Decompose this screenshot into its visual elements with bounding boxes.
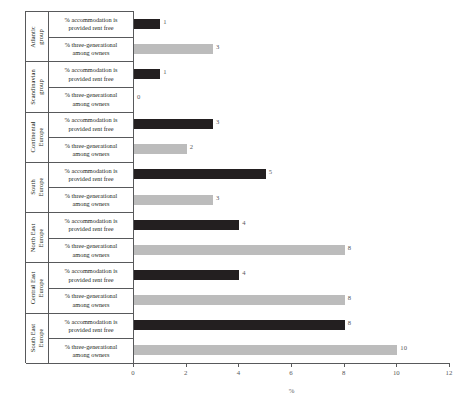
group-label-text: ContinentalEurope xyxy=(29,122,44,153)
group-label-line1: Continental xyxy=(29,122,37,153)
bar-value-continental-europe-three_gen: 2 xyxy=(190,142,193,152)
row-label-line1: % three-generational xyxy=(65,292,118,300)
row-label-line2: among owners xyxy=(65,351,118,359)
bar-continental-europe-rent_free xyxy=(134,119,213,129)
bar-row-scandinavian-three_gen: 0 xyxy=(134,86,450,111)
bar-value-south-east-europe-rent_free: 8 xyxy=(348,318,351,328)
row-label-central-east-europe-three_gen: % three-generationalamong owners xyxy=(49,288,133,313)
row-label-line1: % accommodation is xyxy=(65,116,118,124)
row-label-line1: % three-generational xyxy=(65,91,118,99)
x-tick-10 xyxy=(396,363,397,367)
bar-chart: Atlanticgroup% accommodation isprovided … xyxy=(0,0,469,416)
row-label-central-east-europe-rent_free: % accommodation isprovided rent free xyxy=(49,263,133,288)
bar-scandinavian-rent_free xyxy=(134,69,160,79)
bar-value-scandinavian-three_gen: 0 xyxy=(137,92,140,102)
x-tick-4 xyxy=(238,363,239,367)
bar-value-continental-europe-rent_free: 3 xyxy=(216,117,219,127)
bar-row-north-east-europe-rent_free: 4 xyxy=(134,212,450,237)
group-block-central-east-europe: Central EastEurope% accommodation isprov… xyxy=(26,263,133,313)
row-label-south-europe-three_gen: % three-generationalamong owners xyxy=(49,187,133,212)
group-label-line2: group xyxy=(37,26,45,47)
bar-south-east-europe-three_gen xyxy=(134,345,397,355)
row-label-line1: % three-generational xyxy=(65,142,118,150)
x-tick-label-10: 10 xyxy=(393,368,400,377)
group-label-south-east-europe: South EastEurope xyxy=(26,314,49,363)
bar-value-south-europe-three_gen: 3 xyxy=(216,193,219,203)
row-label-continental-europe-rent_free: % accommodation isprovided rent free xyxy=(49,113,133,138)
group-block-scandinavian: Scandinaviangroup% accommodation isprovi… xyxy=(26,62,133,112)
bar-value-north-east-europe-rent_free: 4 xyxy=(242,218,245,228)
x-tick-0 xyxy=(133,363,134,367)
row-label-line2: provided rent free xyxy=(65,125,118,133)
row-label-scandinavian-three_gen: % three-generationalamong owners xyxy=(49,87,133,112)
bar-value-central-east-europe-rent_free: 4 xyxy=(242,268,245,278)
bar-value-scandinavian-rent_free: 1 xyxy=(163,67,166,77)
group-rows-south-europe: % accommodation isprovided rent free% th… xyxy=(49,163,133,212)
row-label-line1: % accommodation is xyxy=(65,217,118,225)
row-label-line1: % three-generational xyxy=(65,192,118,200)
bar-row-atlantic-three_gen: 3 xyxy=(134,36,450,61)
row-label-north-east-europe-rent_free: % accommodation isprovided rent free xyxy=(49,213,133,238)
row-label-scandinavian-rent_free: % accommodation isprovided rent free xyxy=(49,62,133,87)
row-label-line2: among owners xyxy=(65,100,118,108)
row-label-south-europe-rent_free: % accommodation isprovided rent free xyxy=(49,163,133,188)
bar-row-south-east-europe-three_gen: 10 xyxy=(134,338,450,363)
group-label-scandinavian: Scandinaviangroup xyxy=(26,62,49,111)
row-label-line1: % accommodation is xyxy=(65,267,118,275)
group-block-continental-europe: ContinentalEurope% accommodation isprovi… xyxy=(26,113,133,163)
row-label-atlantic-rent_free: % accommodation isprovided rent free xyxy=(49,12,133,37)
row-label-continental-europe-three_gen: % three-generationalamong owners xyxy=(49,137,133,162)
bar-atlantic-three_gen xyxy=(134,44,213,54)
group-rows-continental-europe: % accommodation isprovided rent free% th… xyxy=(49,113,133,162)
bar-atlantic-rent_free xyxy=(134,19,160,29)
bar-row-continental-europe-rent_free: 3 xyxy=(134,112,450,137)
group-label-line2: Europe xyxy=(37,272,45,305)
bar-row-central-east-europe-three_gen: 8 xyxy=(134,288,450,313)
group-label-line1: North East xyxy=(29,224,37,253)
group-label-atlantic: Atlanticgroup xyxy=(26,12,49,61)
group-block-south-east-europe: South EastEurope% accommodation isprovid… xyxy=(26,314,133,364)
row-label-south-east-europe-three_gen: % three-generationalamong owners xyxy=(49,338,133,363)
x-tick-label-12: 12 xyxy=(446,368,453,377)
group-rows-scandinavian: % accommodation isprovided rent free% th… xyxy=(49,62,133,111)
plot-area: 131032534848810 024681012 % xyxy=(133,11,450,363)
row-label-line2: provided rent free xyxy=(65,24,118,32)
row-label-line1: % accommodation is xyxy=(65,318,118,326)
bar-row-central-east-europe-rent_free: 4 xyxy=(134,262,450,287)
row-label-line2: provided rent free xyxy=(65,75,118,83)
bar-value-atlantic-three_gen: 3 xyxy=(216,42,219,52)
row-label-line2: provided rent free xyxy=(65,326,118,334)
group-label-north-east-europe: North EastEurope xyxy=(26,213,49,262)
bar-value-south-europe-rent_free: 5 xyxy=(269,167,272,177)
group-label-line1: Central East xyxy=(29,272,37,305)
row-label-north-east-europe-three_gen: % three-generationalamong owners xyxy=(49,238,133,263)
group-label-line2: Europe xyxy=(37,324,45,353)
bar-row-atlantic-rent_free: 1 xyxy=(134,11,450,36)
x-tick-label-2: 2 xyxy=(184,368,187,377)
x-tick-label-8: 8 xyxy=(342,368,345,377)
group-rows-central-east-europe: % accommodation isprovided rent free% th… xyxy=(49,263,133,312)
group-label-text: SouthEurope xyxy=(29,178,44,197)
bar-value-north-east-europe-three_gen: 8 xyxy=(348,243,351,253)
row-label-line1: % accommodation is xyxy=(65,167,118,175)
bar-north-east-europe-rent_free xyxy=(134,220,239,230)
row-label-line1: % accommodation is xyxy=(65,66,118,74)
group-label-line1: South xyxy=(29,178,37,197)
group-label-line2: group xyxy=(37,69,45,105)
group-label-line2: Europe xyxy=(37,224,45,253)
row-label-line2: among owners xyxy=(65,200,118,208)
row-label-line1: % three-generational xyxy=(65,242,118,250)
group-label-text: Central EastEurope xyxy=(29,272,44,305)
x-tick-label-0: 0 xyxy=(131,368,134,377)
bar-value-central-east-europe-three_gen: 8 xyxy=(348,293,351,303)
bar-value-atlantic-rent_free: 1 xyxy=(163,17,166,27)
group-block-atlantic: Atlanticgroup% accommodation isprovided … xyxy=(26,12,133,62)
group-label-text: South EastEurope xyxy=(29,324,44,353)
row-label-line2: provided rent free xyxy=(65,225,118,233)
bar-south-east-europe-rent_free xyxy=(134,320,345,330)
group-label-central-east-europe: Central EastEurope xyxy=(26,263,49,312)
bar-row-south-europe-rent_free: 5 xyxy=(134,162,450,187)
group-rows-south-east-europe: % accommodation isprovided rent free% th… xyxy=(49,314,133,363)
group-block-north-east-europe: North EastEurope% accommodation isprovid… xyxy=(26,213,133,263)
row-label-atlantic-three_gen: % three-generationalamong owners xyxy=(49,37,133,62)
